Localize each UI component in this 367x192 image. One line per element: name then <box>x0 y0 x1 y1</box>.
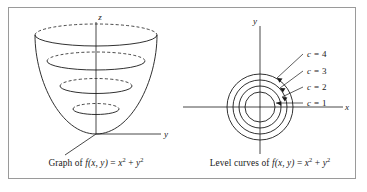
leader-line-group-4 <box>277 54 303 83</box>
level-x-axis-label: x <box>344 102 349 112</box>
level-caption-term2-exp: 2 <box>327 156 330 163</box>
level-label-3: c=3 <box>307 66 327 76</box>
leader-arrow-1 <box>276 101 281 106</box>
y-axis-label: y <box>163 129 168 139</box>
x-axis-line <box>65 134 96 155</box>
leader-line-group-1 <box>276 101 303 106</box>
level-curves-plot: c=4 c=3 c=2 c=1 x y <box>183 8 357 158</box>
level-label-1-eq: = <box>314 98 319 108</box>
figure-border: z y x Graph of f(x, y) = x2 + y2 <box>8 7 356 179</box>
figure-root: z y x Graph of f(x, y) = x2 + y2 <box>0 0 367 192</box>
level-label-3-var: c <box>307 66 311 76</box>
z-axis-label: z <box>97 12 102 22</box>
level-label-1-val: 1 <box>322 98 327 108</box>
level-curves-panel: c=4 c=3 c=2 c=1 x y Level curves of f(x,… <box>183 8 357 178</box>
graph-caption-equals: = <box>108 158 118 168</box>
level-label-3-eq: = <box>314 66 319 76</box>
level-caption-equals: = <box>295 158 305 168</box>
leader-line-group-3 <box>280 71 303 93</box>
paraboloid-left-branch <box>35 35 96 134</box>
paraboloid-plot: z y x <box>9 8 183 158</box>
graph-caption-plus: + <box>126 158 136 168</box>
level-caption-prefix: Level curves of <box>210 158 272 168</box>
leader-line-3 <box>280 71 303 88</box>
level-label-2-var: c <box>307 82 311 92</box>
level-curves-caption: Level curves of f(x, y) = x2 + y2 <box>183 158 357 168</box>
level-label-1-var: c <box>307 98 311 108</box>
level-caption-plus: + <box>312 158 322 168</box>
graph-caption-term2-exp: 2 <box>140 156 143 163</box>
level-label-2-val: 2 <box>322 82 327 92</box>
level-label-4-eq: = <box>314 49 319 59</box>
level-label-4: c=4 <box>307 49 327 59</box>
level-label-4-val: 4 <box>322 49 327 59</box>
paraboloid-right-branch <box>96 35 157 134</box>
level-y-axis-label: y <box>252 16 257 26</box>
level-caption-args: (x, y) <box>275 158 295 168</box>
leader-line-4 <box>277 54 303 78</box>
graph-caption-args: (x, y) <box>88 158 108 168</box>
graph-panel: z y x Graph of f(x, y) = x2 + y2 <box>9 8 183 178</box>
level-label-4-var: c <box>307 49 311 59</box>
level-label-3-val: 3 <box>322 66 327 76</box>
graph-caption-prefix: Graph of <box>48 158 85 168</box>
level-label-2: c=2 <box>307 82 327 92</box>
graph-caption: Graph of f(x, y) = x2 + y2 <box>9 158 183 168</box>
level-label-1: c=1 <box>307 98 327 108</box>
level-label-2-eq: = <box>314 82 319 92</box>
